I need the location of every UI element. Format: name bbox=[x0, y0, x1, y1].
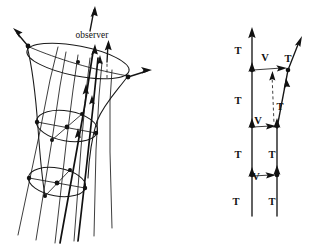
connecting-vector-v-top bbox=[253, 65, 287, 71]
label-t-7: T bbox=[232, 196, 239, 207]
label-t-4: T bbox=[276, 101, 283, 112]
label-t-2: T bbox=[284, 53, 291, 64]
figure-root: observer bbox=[0, 0, 309, 245]
label-v-2: V bbox=[254, 115, 262, 126]
label-v-1: V bbox=[261, 52, 269, 63]
parallel-transport-dashed-line bbox=[269, 71, 275, 124]
label-t-5: T bbox=[234, 149, 241, 160]
label-t-3: T bbox=[234, 95, 241, 106]
label-v-3: V bbox=[252, 171, 260, 182]
label-t-1: T bbox=[234, 45, 241, 56]
label-t-8: T bbox=[268, 196, 275, 207]
label-t-6: T bbox=[268, 149, 275, 160]
right-panel-lattice-diagram: T V T T T V T T V T T bbox=[0, 0, 309, 245]
